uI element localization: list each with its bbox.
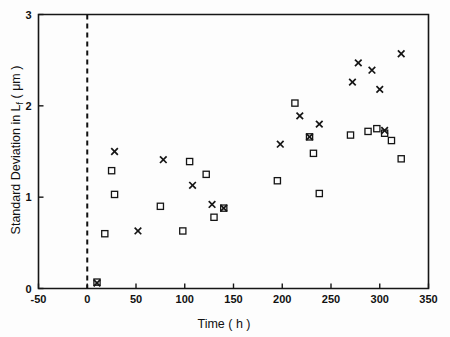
x-axis-title: Time ( h ) — [197, 317, 250, 331]
svg-text:Standard Deviation in Lf ( μm: Standard Deviation in Lf ( μm ) — [9, 66, 25, 235]
y-axis-title-units: ( μm ) — [9, 66, 23, 102]
x-tick-label: -50 — [31, 293, 47, 305]
x-axis-tick-labels: -50050100150200250300350 — [31, 293, 438, 305]
x-tick-label: 50 — [130, 293, 142, 305]
data-point-square — [203, 171, 209, 177]
y-axis-tick-labels: 0123 — [25, 9, 31, 295]
data-point-cross — [209, 201, 216, 208]
data-point-cross — [306, 134, 313, 141]
data-point-square — [111, 191, 117, 197]
y-axis-title-main: Standard Deviation in L — [9, 104, 23, 234]
data-point-square — [365, 128, 371, 134]
y-tick-label: 3 — [25, 9, 31, 21]
y-axis-title-group: Standard Deviation in Lf ( μm ) — [9, 66, 25, 235]
data-point-cross — [111, 148, 118, 155]
data-point-square — [187, 158, 193, 164]
data-point-square — [292, 100, 298, 106]
data-point-square — [180, 228, 186, 234]
cross-series-markers — [94, 50, 405, 286]
x-tick-label: 200 — [273, 293, 291, 305]
data-point-cross — [189, 182, 196, 189]
y-tick-label: 0 — [25, 283, 31, 295]
data-point-square — [316, 190, 322, 196]
data-point-square — [398, 156, 404, 162]
data-point-cross — [355, 60, 362, 67]
data-point-square — [109, 168, 115, 174]
data-point-square — [374, 126, 380, 132]
x-tick-label: 0 — [84, 293, 90, 305]
data-point-square — [157, 203, 163, 209]
x-tick-label: 250 — [322, 293, 340, 305]
data-point-cross — [349, 79, 356, 86]
data-point-cross — [277, 141, 284, 148]
data-point-cross — [398, 50, 405, 57]
square-series-markers — [94, 100, 404, 285]
data-point-square — [388, 137, 394, 143]
plot-axes-frame — [39, 15, 429, 289]
data-point-cross — [316, 121, 323, 128]
data-point-cross — [376, 86, 383, 93]
data-point-cross — [160, 156, 167, 163]
data-point-square — [274, 178, 280, 184]
y-tick-label: 1 — [25, 191, 31, 203]
data-point-cross — [220, 205, 227, 212]
scatter-plot-svg: -50050100150200250300350 0123 Time ( h )… — [0, 0, 450, 337]
data-point-square — [310, 150, 316, 156]
data-point-cross — [297, 113, 304, 120]
x-tick-label: 300 — [371, 293, 389, 305]
data-point-square — [347, 132, 353, 138]
plot-frame — [39, 15, 429, 289]
x-tick-label: 100 — [176, 293, 194, 305]
y-tick-label: 2 — [25, 100, 31, 112]
x-tick-label: 350 — [419, 293, 437, 305]
data-point-square — [102, 231, 108, 237]
data-point-cross — [369, 67, 376, 74]
x-tick-label: 150 — [224, 293, 242, 305]
data-point-cross — [135, 228, 142, 235]
chart-figure: -50050100150200250300350 0123 Time ( h )… — [0, 0, 450, 337]
data-point-square — [211, 214, 217, 220]
